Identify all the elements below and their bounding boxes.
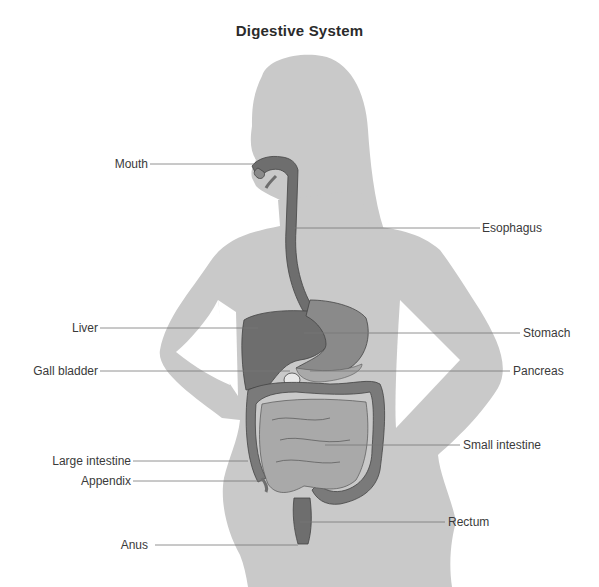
label-appendix: Appendix bbox=[81, 474, 131, 488]
label-mouth: Mouth bbox=[115, 157, 148, 171]
label-liver: Liver bbox=[72, 321, 98, 335]
label-small-intestine: Small intestine bbox=[463, 438, 541, 452]
label-stomach: Stomach bbox=[523, 326, 570, 340]
label-gall-bladder: Gall bladder bbox=[33, 364, 98, 378]
digestive-system-illustration bbox=[0, 0, 599, 587]
small-intestine bbox=[260, 399, 368, 492]
rectum bbox=[293, 498, 311, 544]
label-large-intestine: Large intestine bbox=[52, 454, 131, 468]
label-anus: Anus bbox=[121, 538, 148, 552]
label-rectum: Rectum bbox=[448, 515, 489, 529]
label-esophagus: Esophagus bbox=[482, 221, 542, 235]
label-pancreas: Pancreas bbox=[513, 364, 564, 378]
